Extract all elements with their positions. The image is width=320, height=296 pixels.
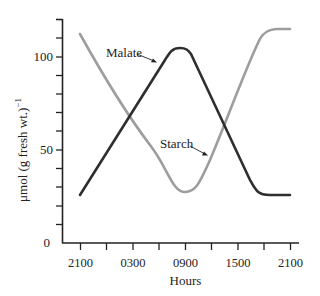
x-tick-label-2100-end: 2100 (278, 256, 303, 270)
starch-label: Starch (160, 136, 194, 151)
x-axis (62, 243, 299, 250)
x-tick-label-2100-start: 2100 (68, 256, 93, 270)
malate-starch-chart: 0 50 100 2100 0300 0900 1500 2100 Hours … (0, 0, 320, 296)
malate-label: Malate (106, 45, 142, 60)
y-axis (56, 19, 63, 243)
y-tick-label-100: 100 (34, 49, 54, 64)
x-tick-label-0300: 0300 (121, 256, 146, 270)
x-tick-label-0900: 0900 (173, 256, 198, 270)
y-axis-title: μmol (g fresh wt.)−1 (13, 98, 30, 202)
svg-text:μmol (g fresh wt.)−1: μmol (g fresh wt.)−1 (13, 98, 30, 202)
y-ticks (56, 38, 63, 225)
y-tick-label-50: 50 (40, 142, 53, 157)
x-ticks (81, 243, 291, 250)
y-axis-title-main: μmol (g fresh wt.) (15, 108, 30, 202)
x-tick-label-1500: 1500 (226, 256, 251, 270)
malate-curve (80, 48, 290, 195)
x-axis-title: Hours (170, 273, 202, 288)
y-axis-title-exponent: −1 (13, 98, 23, 108)
y-tick-label-0: 0 (44, 235, 51, 250)
